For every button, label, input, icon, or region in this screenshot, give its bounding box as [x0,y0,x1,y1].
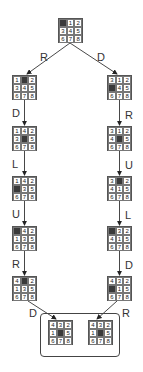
move-label: U [125,160,133,171]
cell: 2 [28,227,36,235]
cell [108,84,116,92]
cell: 5 [123,235,131,243]
goal-state-right: 43215678 [88,320,113,345]
cell: 8 [28,143,36,151]
cell: 3 [116,277,124,285]
left-branch-state: 14235678 [12,176,37,201]
cell: 8 [28,193,36,201]
left-branch-state: 14235678 [12,126,37,151]
cell: 4 [21,227,29,235]
cell [116,135,124,143]
cell: 5 [28,84,36,92]
cell: 7 [21,92,29,100]
cell: 4 [49,321,57,329]
cell: 4 [21,127,29,135]
cell: 1 [13,235,21,243]
left-branch-state: 12345678 [12,75,37,100]
root-state: 1 2 3 4 5 6 7 8 [58,18,83,43]
cell: 8 [123,193,131,201]
cell: 2 [123,127,131,135]
cell: 8 [123,143,131,151]
move-label: R [125,110,133,121]
cell: 8 [123,243,131,251]
cell: 1 [13,285,21,293]
cell: 7 [21,143,29,151]
cell: 5 [64,329,72,337]
right-branch-state: 32415678 [107,226,132,251]
move-label: L [125,210,131,221]
cell: 6 [13,293,21,301]
cell: 6 [108,243,116,251]
cell: 2 [123,177,131,185]
cell [21,76,29,84]
cell: 3 [13,84,21,92]
cell: 3 [21,185,29,193]
cell: 8 [28,243,36,251]
cell: 8 [123,92,131,100]
cell: 3 [21,235,29,243]
cell: 6 [49,337,57,345]
cell: 7 [116,193,124,201]
cell [21,277,29,285]
cell: 8 [123,293,131,301]
cell: 6 [89,337,97,345]
cell: 6 [108,92,116,100]
cell: 1 [116,235,124,243]
cell: 5 [28,235,36,243]
move-label: R [122,308,130,319]
cell: 7 [57,337,65,345]
right-branch-state: 32415678 [107,176,132,201]
cell: 4 [21,177,29,185]
cell: 7 [67,35,75,43]
cell: 4 [108,277,116,285]
cell [13,227,21,235]
cell: 5 [28,185,36,193]
cell: 1 [13,177,21,185]
cell: 3 [13,135,21,143]
cell: 1 [49,329,57,337]
cell: 6 [108,293,116,301]
cell: 6 [13,92,21,100]
cell: 7 [116,293,124,301]
cell: 5 [123,185,131,193]
cell: 2 [123,277,131,285]
cell [13,185,21,193]
cell: 2 [64,321,72,329]
cell: 1 [89,329,97,337]
cell: 2 [104,321,112,329]
cell: 7 [116,92,124,100]
goal-state-left: 43215678 [48,320,73,345]
left-branch-state: 42135678 [12,276,37,301]
cell [97,329,105,337]
cell: 2 [74,19,82,27]
cell: 8 [64,337,72,345]
right-branch-state: 31245678 [107,126,132,151]
cell: 7 [116,143,124,151]
cell: 5 [74,27,82,35]
move-label: D [12,108,20,119]
cell: 1 [13,76,21,84]
cell: 2 [28,127,36,135]
cell: 4 [21,84,29,92]
cell: 8 [74,35,82,43]
cell [57,329,65,337]
cell: 3 [21,285,29,293]
cell: 4 [89,321,97,329]
cell [21,135,29,143]
cell: 5 [104,329,112,337]
cell: 4 [116,84,124,92]
cell [108,285,116,293]
cell: 7 [21,243,29,251]
cell: 3 [97,321,105,329]
cell [116,177,124,185]
cell: 5 [123,285,131,293]
cell: 8 [28,92,36,100]
cell: 6 [108,193,116,201]
cell: 7 [21,293,29,301]
cell [108,227,116,235]
cell: 4 [67,27,75,35]
move-label: U [12,209,20,220]
move-label: D [97,52,105,63]
cell: 5 [123,135,131,143]
left-branch-state: 42135678 [12,226,37,251]
